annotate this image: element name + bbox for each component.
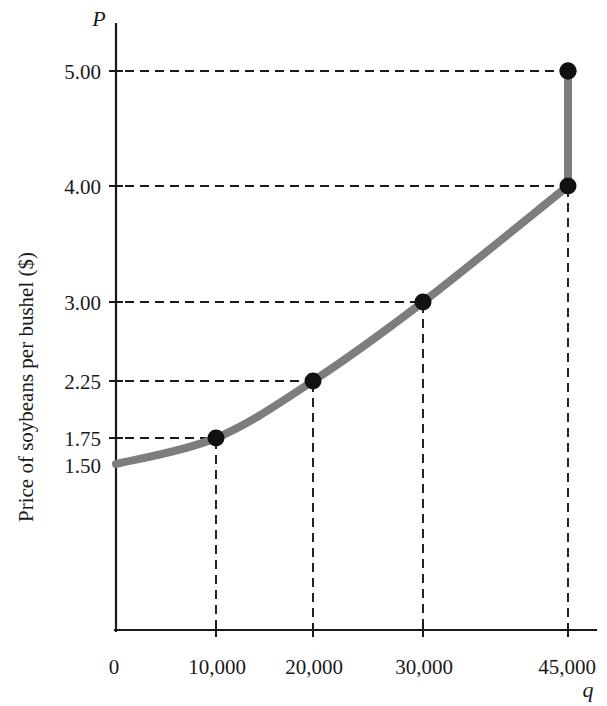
supply-curve-group bbox=[116, 71, 568, 464]
chart-canvas: 5.00 4.00 3.00 2.25 1.75 1.50 0 10,000 2… bbox=[0, 0, 607, 706]
axis-symbols: P q bbox=[91, 6, 593, 702]
y-axis-tick-labels: 5.00 4.00 3.00 2.25 1.75 1.50 bbox=[64, 60, 101, 478]
x-tick-label-45000: 45,000 bbox=[538, 655, 596, 679]
data-point-markers bbox=[208, 63, 577, 447]
axis-lines bbox=[115, 24, 596, 631]
data-point-10000-175[interactable] bbox=[305, 373, 322, 390]
y-tick-label-150: 1.50 bbox=[64, 454, 101, 478]
x-axis-symbol-q: q bbox=[583, 677, 594, 702]
y-axis-symbol-P: P bbox=[91, 6, 105, 31]
y-tick-label-300: 3.00 bbox=[64, 291, 101, 315]
supply-curve-figure: 5.00 4.00 3.00 2.25 1.75 1.50 0 10,000 2… bbox=[0, 0, 607, 706]
y-tick-label-175: 1.75 bbox=[64, 427, 101, 451]
y-tick-label-400: 4.00 bbox=[64, 175, 101, 199]
y-axis-title: Price of soybeans per bushel ($) bbox=[14, 252, 39, 522]
supply-curve-line bbox=[116, 186, 568, 464]
x-axis-tick-labels: 0 10,000 20,000 30,000 45,000 bbox=[109, 655, 596, 679]
x-tick-label-30000: 30,000 bbox=[395, 655, 453, 679]
x-tick-label-10000: 10,000 bbox=[188, 655, 246, 679]
data-point-20000-225[interactable] bbox=[415, 294, 432, 311]
x-tick-label-20000: 20,000 bbox=[285, 655, 343, 679]
x-tick-label-0: 0 bbox=[109, 655, 120, 679]
y-tick-label-500: 5.00 bbox=[64, 60, 101, 84]
data-point-45000-500[interactable] bbox=[560, 63, 577, 80]
data-point-0-150[interactable] bbox=[208, 430, 225, 447]
dashed-guide-lines bbox=[110, 71, 570, 632]
data-point-30000-300[interactable] bbox=[560, 178, 577, 195]
y-tick-label-225: 2.25 bbox=[64, 370, 101, 394]
y-axis-title-container: Price of soybeans per bushel ($) bbox=[14, 252, 15, 253]
